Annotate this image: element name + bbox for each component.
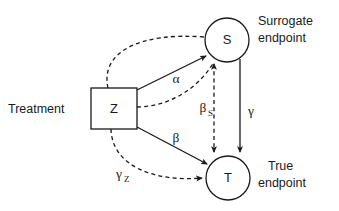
edge-label-gamma: γ xyxy=(247,103,254,118)
node-t-side-label-line2: endpoint xyxy=(258,176,306,190)
node-s-label: S xyxy=(223,32,232,47)
edge-label-alpha: α xyxy=(172,71,179,86)
node-s-side-label-line2: endpoint xyxy=(258,31,306,45)
edge-label-gamma-z-subscript: Z xyxy=(124,174,130,184)
edge-label-beta: β xyxy=(173,130,180,145)
edge-label-beta-s-subscript: S xyxy=(208,108,213,118)
edge-label-beta-s: β xyxy=(200,100,207,115)
node-z-label: Z xyxy=(110,101,118,116)
node-t-label: T xyxy=(224,170,232,185)
diagram-canvas: Z S T Treatment Surrogate endpoint True … xyxy=(0,0,339,211)
diagram-svg: Z S T Treatment Surrogate endpoint True … xyxy=(0,0,339,211)
edge-label-gamma-z: γ xyxy=(115,166,122,181)
node-s-side-label-line1: Surrogate xyxy=(258,14,313,28)
node-t-side-label-line1: True xyxy=(268,159,293,173)
node-z-side-label: Treatment xyxy=(8,102,65,116)
